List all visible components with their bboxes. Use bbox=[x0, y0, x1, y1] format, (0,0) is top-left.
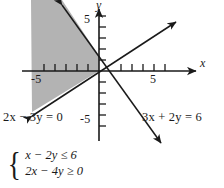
system-brace: { bbox=[8, 149, 21, 179]
x-tick-label-neg5: -5 bbox=[31, 72, 41, 87]
system-of-inequalities: { x − 2y ≤ 6 2x − 4y ≥ 0 bbox=[6, 148, 83, 179]
solution-region-fill-lower bbox=[32, 71, 99, 112]
y-tick-label-neg5: -5 bbox=[80, 112, 90, 127]
inequality-1: x − 2y ≤ 6 bbox=[25, 148, 83, 163]
y-tick-label-pos5: 5 bbox=[84, 12, 90, 27]
y-axis-label: y bbox=[96, 0, 102, 13]
equation-label-2x-3y-0: 2x − 3y = 0 bbox=[3, 110, 63, 125]
x-axis-label: x bbox=[200, 56, 206, 71]
inequality-list: x − 2y ≤ 6 2x − 4y ≥ 0 bbox=[25, 148, 83, 179]
inequality-2: 2x − 4y ≥ 0 bbox=[25, 164, 83, 179]
x-tick-label-pos5: 5 bbox=[150, 72, 156, 87]
equation-label-3x-2y-6: 3x + 2y = 6 bbox=[142, 110, 202, 125]
